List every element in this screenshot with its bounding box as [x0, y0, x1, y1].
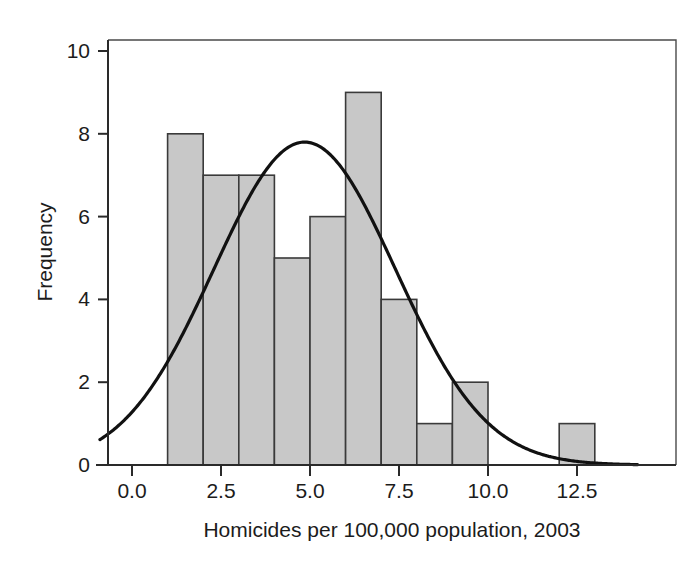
histogram-bar — [168, 134, 204, 465]
histogram-bar — [346, 92, 382, 465]
y-axis-ticks: 0246810 — [67, 39, 108, 476]
histogram-figure: 0246810 0.02.55.07.510.012.5 Frequency H… — [0, 0, 684, 562]
y-axis: 0246810 — [67, 39, 108, 476]
x-tick-label: 5.0 — [295, 479, 324, 502]
x-tick-label: 7.5 — [384, 479, 413, 502]
x-axis-title: Homicides per 100,000 population, 2003 — [203, 518, 580, 541]
y-tick-label: 4 — [78, 287, 90, 310]
x-tick-label: 0.0 — [117, 479, 146, 502]
chart-canvas: 0246810 0.02.55.07.510.012.5 Frequency H… — [0, 0, 684, 562]
x-tick-label: 12.5 — [557, 479, 598, 502]
y-tick-label: 8 — [78, 122, 90, 145]
y-tick-label: 10 — [67, 39, 90, 62]
histogram-bar — [417, 424, 453, 465]
x-axis-ticks: 0.02.55.07.510.012.5 — [117, 465, 597, 502]
histogram-bar — [274, 258, 310, 465]
x-tick-label: 10.0 — [468, 479, 509, 502]
x-axis: 0.02.55.07.510.012.5 — [96, 465, 676, 502]
histogram-bars — [168, 92, 595, 465]
x-tick-label: 2.5 — [206, 479, 235, 502]
y-axis-title: Frequency — [33, 202, 56, 302]
histogram-bar — [203, 175, 239, 465]
y-tick-label: 2 — [78, 370, 90, 393]
histogram-bar — [381, 299, 417, 465]
y-tick-label: 6 — [78, 205, 90, 228]
histogram-bar — [239, 175, 275, 465]
histogram-bar — [452, 382, 488, 465]
histogram-bar — [310, 217, 346, 465]
y-tick-label: 0 — [78, 453, 90, 476]
